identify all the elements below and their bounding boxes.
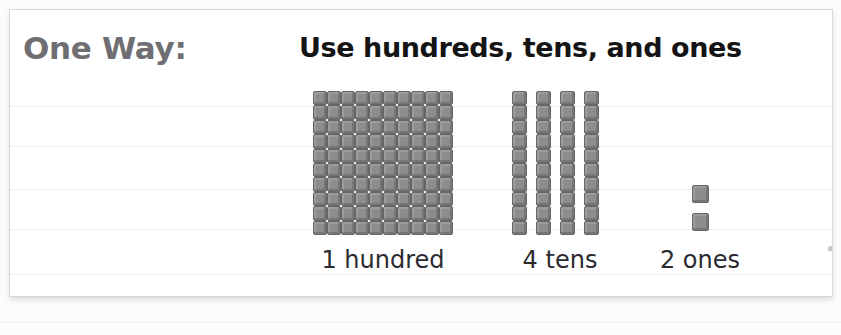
unit-cube — [584, 91, 599, 105]
card-rule-line — [10, 274, 832, 275]
unit-cube — [536, 149, 551, 163]
ones-cubes-group — [692, 185, 712, 235]
unit-cube — [383, 134, 397, 148]
unit-cube — [512, 192, 527, 206]
unit-cube — [369, 134, 383, 148]
unit-cube — [355, 134, 369, 148]
unit-cube — [425, 177, 439, 191]
unit-cube — [439, 163, 453, 177]
unit-cube — [584, 105, 599, 119]
unit-cube — [397, 91, 411, 105]
unit-cube — [327, 192, 341, 206]
unit-cube — [560, 105, 575, 119]
unit-cube — [439, 105, 453, 119]
unit-cube — [536, 120, 551, 134]
unit-cube — [439, 192, 453, 206]
unit-cube — [355, 206, 369, 220]
unit-cube — [313, 177, 327, 191]
unit-cube — [411, 221, 425, 235]
unit-cube — [355, 149, 369, 163]
unit-cube — [439, 177, 453, 191]
unit-cube — [560, 120, 575, 134]
unit-cube — [355, 177, 369, 191]
unit-cube — [313, 221, 327, 235]
unit-cube — [327, 163, 341, 177]
unit-cube — [425, 134, 439, 148]
caption-hundreds: 1 hundred — [313, 246, 453, 274]
unit-cube — [341, 149, 355, 163]
unit-cube — [397, 206, 411, 220]
unit-cube — [397, 177, 411, 191]
unit-cube — [369, 177, 383, 191]
unit-cube — [560, 163, 575, 177]
unit-cube — [327, 221, 341, 235]
unit-cube — [397, 149, 411, 163]
unit-cube — [512, 221, 527, 235]
ten-rod — [536, 91, 551, 235]
unit-cube — [397, 120, 411, 134]
unit-cube — [512, 91, 527, 105]
unit-cube — [341, 105, 355, 119]
page-rule-line — [0, 322, 841, 323]
unit-cube — [355, 192, 369, 206]
unit-cube — [397, 105, 411, 119]
unit-cube — [355, 105, 369, 119]
unit-cube — [512, 206, 527, 220]
unit-cube — [397, 221, 411, 235]
unit-cube — [584, 134, 599, 148]
unit-cube — [425, 120, 439, 134]
unit-cube — [313, 91, 327, 105]
unit-cube — [341, 221, 355, 235]
unit-cube — [327, 206, 341, 220]
unit-cube — [313, 134, 327, 148]
unit-cube — [313, 206, 327, 220]
unit-cube — [425, 221, 439, 235]
unit-cube — [383, 105, 397, 119]
unit-cube — [560, 134, 575, 148]
unit-cube — [536, 105, 551, 119]
unit-cube — [383, 163, 397, 177]
unit-cube — [369, 206, 383, 220]
method-title: Use hundreds, tens, and ones — [299, 32, 742, 63]
unit-cube — [560, 91, 575, 105]
unit-cube — [313, 163, 327, 177]
unit-cube — [584, 177, 599, 191]
unit-cube — [584, 206, 599, 220]
tens-rods-group — [512, 91, 608, 235]
unit-cube — [536, 177, 551, 191]
unit-cube — [383, 177, 397, 191]
unit-cube — [439, 206, 453, 220]
unit-cube — [411, 206, 425, 220]
unit-cube — [439, 149, 453, 163]
unit-cube — [425, 163, 439, 177]
unit-cube — [313, 120, 327, 134]
unit-cube — [425, 192, 439, 206]
caption-ones: 2 ones — [640, 246, 760, 274]
unit-cube — [512, 105, 527, 119]
unit-cube — [355, 221, 369, 235]
unit-cube — [439, 221, 453, 235]
unit-cube — [341, 91, 355, 105]
unit-cube — [369, 120, 383, 134]
unit-cube — [425, 105, 439, 119]
unit-cube — [692, 185, 709, 203]
unit-cube — [369, 192, 383, 206]
unit-cube — [692, 213, 709, 231]
unit-cube — [327, 120, 341, 134]
ten-rod — [560, 91, 575, 235]
unit-cube — [512, 149, 527, 163]
unit-cube — [439, 91, 453, 105]
unit-cube — [341, 120, 355, 134]
unit-cube — [536, 221, 551, 235]
unit-cube — [411, 177, 425, 191]
unit-cube — [355, 91, 369, 105]
unit-cube — [369, 91, 383, 105]
unit-cube — [560, 221, 575, 235]
unit-cube — [411, 91, 425, 105]
unit-cube — [536, 206, 551, 220]
unit-cube — [536, 192, 551, 206]
unit-cube — [383, 120, 397, 134]
unit-cube — [425, 91, 439, 105]
unit-cube — [327, 105, 341, 119]
unit-cube — [369, 105, 383, 119]
